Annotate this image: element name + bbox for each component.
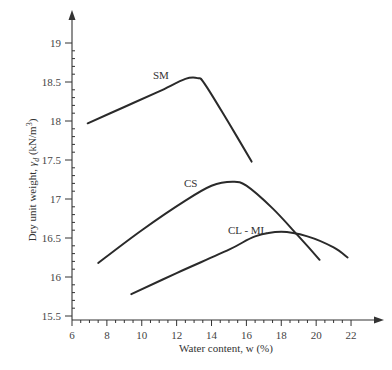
y-tick-label: 16.5: [42, 232, 62, 244]
y-ticks: 15.51616.51717.51818.519: [42, 37, 75, 322]
x-ticks: 6810121416182022: [69, 320, 356, 341]
y-axis-arrow-icon: [69, 10, 76, 20]
x-tick-label: 18: [276, 329, 288, 341]
y-tick-label: 17.5: [42, 154, 62, 166]
x-axis-title: Water content, w (%): [179, 342, 273, 355]
series-cs-curve: [98, 182, 319, 263]
x-tick-label: 10: [136, 329, 148, 341]
y-axis-title: Dry unit weight, γd (kN/m3): [25, 118, 41, 241]
y-tick-label: 16: [50, 271, 62, 283]
series-label-sm: SM: [153, 69, 169, 81]
x-tick-label: 16: [241, 329, 253, 341]
series-label-clml: CL - ML: [228, 224, 268, 236]
x-axis-arrow-icon: [374, 317, 384, 324]
y-tick-label: 19: [50, 37, 62, 49]
series-label-cs: CS: [184, 177, 197, 189]
y-tick-label: 17: [50, 193, 62, 205]
y-tick-label: 18.5: [42, 76, 62, 88]
x-tick-label: 6: [69, 329, 75, 341]
series-clml-curve: [131, 232, 347, 294]
x-tick-label: 20: [311, 329, 323, 341]
x-tick-label: 14: [206, 329, 218, 341]
y-tick-label: 18: [50, 115, 62, 127]
series-sm-curve: [88, 77, 252, 161]
compaction-chart: 6810121416182022 15.51616.51717.51818.51…: [0, 0, 392, 370]
y-tick-label: 15.5: [42, 310, 62, 322]
x-tick-label: 22: [346, 329, 357, 341]
x-tick-label: 8: [104, 329, 110, 341]
x-tick-label: 12: [171, 329, 182, 341]
